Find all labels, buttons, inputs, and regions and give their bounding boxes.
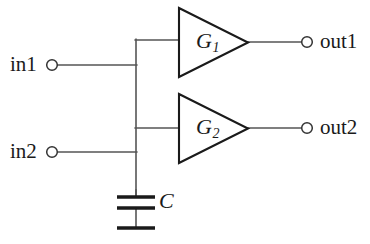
amplifier-label-g2: G2	[196, 116, 219, 141]
schematic-svg	[0, 0, 370, 244]
amplifier-g2-subscript: 2	[212, 126, 219, 141]
output-label-out2: out2	[320, 117, 357, 138]
terminal-out2-circle[interactable]	[302, 123, 313, 134]
input-label-in2: in2	[10, 141, 37, 162]
terminal-out1-circle[interactable]	[302, 37, 313, 48]
terminal-in2-circle[interactable]	[47, 147, 58, 158]
amplifier-g1-symbol: G	[196, 28, 212, 53]
capacitor-label-c: C	[159, 190, 174, 212]
amplifier-g2-symbol: G	[196, 114, 212, 139]
terminal-in1-circle[interactable]	[47, 60, 58, 71]
output-label-out1: out1	[320, 31, 357, 52]
amplifier-label-g1: G1	[196, 30, 219, 55]
capacitor-symbol[interactable]	[117, 197, 155, 208]
amplifier-g1-subscript: 1	[212, 40, 219, 55]
circuit-diagram-canvas: in1 in2 out1 out2 G1 G2 C	[0, 0, 370, 244]
input-label-in1: in1	[10, 54, 37, 75]
